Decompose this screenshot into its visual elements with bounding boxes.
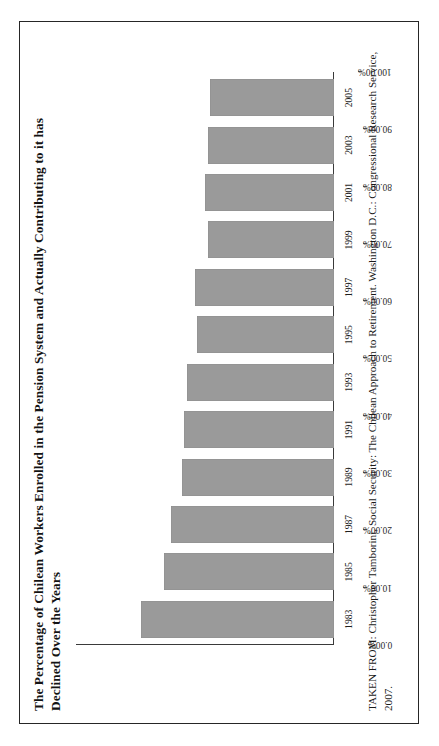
- bar-slot: [76, 169, 334, 216]
- bar-1995[interactable]: [197, 316, 334, 353]
- bar-slot: [76, 406, 334, 453]
- bar-1989[interactable]: [182, 459, 334, 496]
- bar-slot: [76, 358, 334, 405]
- bar-slot: [76, 264, 334, 311]
- bar-series: [76, 72, 334, 645]
- figure-frame: The Percentage of Chilean Workers Enroll…: [19, 21, 419, 724]
- bar-1997[interactable]: [195, 269, 334, 306]
- bar-slot: [76, 501, 334, 548]
- bar-1993[interactable]: [187, 364, 334, 401]
- bar-1999[interactable]: [208, 221, 334, 258]
- title-block: The Percentage of Chilean Workers Enroll…: [30, 71, 64, 711]
- rotated-chart-stage: The Percentage of Chilean Workers Enroll…: [20, 22, 420, 725]
- bar-slot: [76, 596, 334, 643]
- bar-slot: [76, 548, 334, 595]
- bar-2001[interactable]: [205, 174, 334, 211]
- bar-slot: [76, 74, 334, 121]
- bar-1987[interactable]: [171, 506, 334, 543]
- bar-1991[interactable]: [184, 411, 334, 448]
- source-citation: TAKEN FROM: Christopher Tamborini, Socia…: [364, 51, 396, 711]
- bar-2005[interactable]: [210, 79, 334, 116]
- bar-slot: [76, 311, 334, 358]
- source-block: TAKEN FROM: Christopher Tamborini, Socia…: [364, 51, 396, 711]
- page-title: The Percentage of Chilean Workers Enroll…: [30, 71, 64, 711]
- bar-slot: [76, 453, 334, 500]
- bar-1985[interactable]: [164, 553, 334, 590]
- bar-1983[interactable]: [141, 601, 335, 638]
- value-tick-mark: [358, 71, 362, 72]
- plot-area: [76, 72, 334, 645]
- bar-2003[interactable]: [208, 127, 334, 164]
- bar-slot: [76, 216, 334, 263]
- bar-slot: [76, 121, 334, 168]
